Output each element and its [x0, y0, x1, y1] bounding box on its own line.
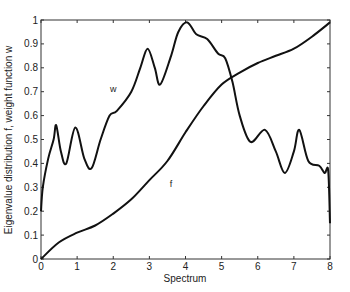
series-label-f: f: [170, 179, 173, 189]
x-tick-label: 1: [74, 261, 80, 272]
line-chart: 012345678 00.10.20.30.40.50.60.70.80.91 …: [0, 0, 350, 292]
y-tick-label: 0.3: [24, 182, 38, 193]
y-tick-label: 0.9: [24, 38, 38, 49]
x-tick-label: 6: [255, 261, 261, 272]
y-tick-label: 0.8: [24, 62, 38, 73]
y-tick-label: 0: [32, 254, 38, 265]
x-tick-label: 0: [38, 261, 44, 272]
y-tick-label: 0.2: [24, 206, 38, 217]
y-tick-label: 1: [32, 15, 38, 26]
y-tick-label: 0.7: [24, 86, 38, 97]
y-tick-label: 0.6: [24, 110, 38, 121]
x-axis-label: Spectrum: [164, 273, 207, 284]
y-axis-label: Eigenvalue distribution f, weight functi…: [3, 45, 14, 234]
plot-border: [41, 20, 330, 259]
x-tick-label: 5: [219, 261, 225, 272]
series-layer: wf: [41, 22, 330, 259]
x-axis-ticks: 012345678: [38, 20, 333, 272]
x-tick-label: 7: [291, 261, 297, 272]
plot-frame: [41, 20, 330, 259]
series-line-f: [41, 22, 330, 259]
y-tick-label: 0.5: [24, 134, 38, 145]
x-tick-label: 3: [147, 261, 153, 272]
y-tick-label: 0.4: [24, 158, 38, 169]
x-tick-label: 8: [327, 261, 333, 272]
series-label-w: w: [109, 84, 117, 94]
x-tick-label: 2: [110, 261, 116, 272]
x-tick-label: 4: [183, 261, 189, 272]
y-tick-label: 0.1: [24, 230, 38, 241]
